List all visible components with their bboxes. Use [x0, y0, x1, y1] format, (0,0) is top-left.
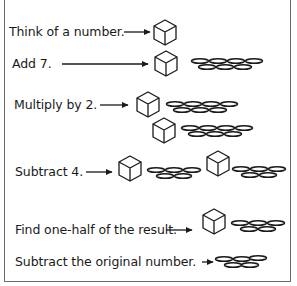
cube-icon: [207, 151, 229, 176]
cube-icon: [155, 51, 177, 76]
coin-group-icon: [216, 256, 267, 268]
cube-icon: [137, 92, 159, 117]
diagram-artwork: [0, 0, 297, 286]
coin-group-icon: [233, 167, 286, 178]
cube-icon: [203, 209, 225, 234]
step-multiply2-visual: [100, 92, 253, 143]
coin-group-icon: [167, 102, 238, 113]
coin-group-icon: [148, 168, 201, 179]
step-think-visual: [124, 20, 176, 45]
step-subtract-original-visual: [202, 256, 267, 268]
cube-icon: [154, 20, 176, 45]
coin-group-icon: [192, 59, 263, 70]
cube-icon: [119, 156, 141, 181]
coin-group-icon: [182, 126, 253, 137]
cube-icon: [153, 118, 175, 143]
step-subtract4-visual: [86, 151, 286, 181]
step-half-visual: [166, 209, 285, 234]
step-add7-visual: [62, 51, 263, 76]
coin-group-icon: [232, 221, 285, 232]
